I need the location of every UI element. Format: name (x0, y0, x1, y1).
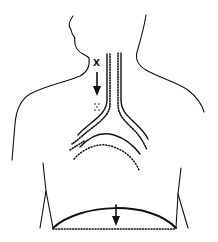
face-profile (12, 16, 89, 160)
trachea (70, 53, 148, 170)
respiratory-diagram (0, 0, 218, 242)
x-marker-label: X (93, 59, 100, 68)
right-waist-outer (178, 194, 188, 228)
right-neck-shoulder (136, 15, 204, 112)
diaphragm (53, 205, 176, 229)
right-waist (176, 168, 181, 228)
left-waist (40, 163, 46, 228)
x-marker-arrow (93, 72, 101, 111)
left-waist-inner (46, 191, 53, 228)
